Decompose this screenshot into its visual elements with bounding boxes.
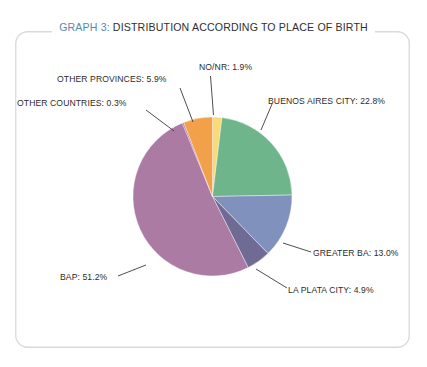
leader-line-greater-ba <box>283 243 311 252</box>
leader-line-bap <box>118 265 146 276</box>
pie-label-bap: BAP: 51.2% <box>60 272 107 283</box>
figure-canvas: GRAPH 3: DISTRIBUTION ACCORDING TO PLACE… <box>0 0 427 367</box>
pie-label-la-plata-city: LA PLATA CITY: 4.9% <box>288 285 374 296</box>
pie-label-greater-ba: GREATER BA: 13.0% <box>313 248 399 259</box>
pie-label-other-provinces: OTHER PROVINCES: 5.9% <box>57 74 167 85</box>
pie-label-buenos-aires-city: BUENOS AIRES CITY: 22.8% <box>268 96 385 107</box>
leader-line-other-countries <box>146 110 174 131</box>
title-text: DISTRIBUTION ACCORDING TO PLACE OF BIRTH <box>110 21 368 33</box>
pie-label-nonr: NO/NR: 1.9% <box>199 62 252 73</box>
pie-chart <box>0 0 427 367</box>
pie-slice-buenos-aires-city[interactable] <box>213 118 292 197</box>
leader-line-other-provinces <box>180 88 193 122</box>
title-accent: GRAPH 3: <box>59 21 110 33</box>
pie-slices <box>133 117 292 276</box>
leader-line-la-plata <box>256 269 287 288</box>
page-title: GRAPH 3: DISTRIBUTION ACCORDING TO PLACE… <box>0 21 427 34</box>
leader-line-buenos-aires <box>261 104 272 130</box>
pie-label-other-countries: OTHER COUNTRIES: 0.3% <box>17 98 127 109</box>
leader-line-nonr <box>211 76 214 115</box>
